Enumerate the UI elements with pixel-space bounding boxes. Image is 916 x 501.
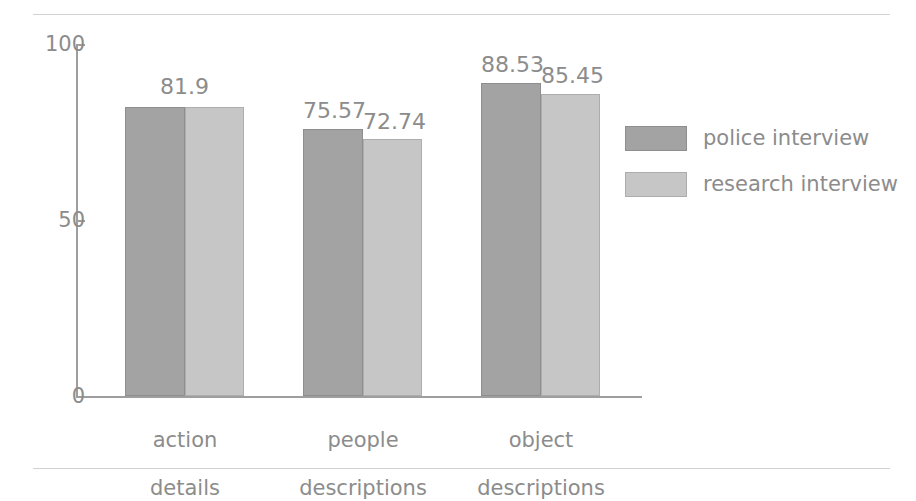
category-label-action-details: action details [104,404,266,501]
bar-value-label-police-object: 88.53 [481,54,541,76]
bar-police-people-descriptions[interactable] [303,129,363,396]
legend-item-police-interview[interactable]: police interview [625,121,898,155]
bar-value-label-research-object: 85.45 [541,65,600,87]
legend-label-research-interview: research interview [703,174,898,195]
category-label-line1: action [153,428,218,452]
legend-swatch-research-interview [625,172,687,197]
chart-legend: police interview research interview [625,121,898,213]
category-label-line2: descriptions [299,476,427,500]
y-tick-label-50: 50 [23,210,85,231]
category-label-line1: object [509,428,574,452]
bar-value-label-group1: 81.9 [125,76,244,98]
category-label-people-descriptions: people descriptions [282,404,444,501]
x-axis-line [76,396,642,398]
bar-value-label-research-people: 72.74 [363,111,422,133]
category-label-line1: people [327,428,398,452]
legend-swatch-police-interview [625,126,687,151]
category-label-line2: details [150,476,220,500]
bar-value-label-police-people: 75.57 [303,100,363,122]
y-tick-label-0: 0 [23,386,85,407]
legend-item-research-interview[interactable]: research interview [625,167,898,201]
y-tick-label-100: 100 [23,34,85,55]
bar-research-people-descriptions[interactable] [363,139,422,396]
legend-label-police-interview: police interview [703,128,869,149]
bar-police-action-details[interactable] [125,107,185,396]
bar-research-object-descriptions[interactable] [541,94,600,396]
bar-research-action-details[interactable] [185,107,244,396]
category-label-object-descriptions: object descriptions [460,404,622,501]
bar-police-object-descriptions[interactable] [481,83,541,396]
category-label-line2: descriptions [477,476,605,500]
